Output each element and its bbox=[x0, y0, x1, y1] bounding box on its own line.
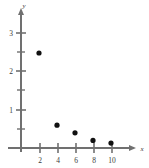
data-point-series bbox=[36, 50, 113, 145]
data-point bbox=[72, 130, 77, 135]
x-tick-label-4: 4 bbox=[56, 156, 60, 165]
data-point bbox=[108, 140, 113, 145]
data-point bbox=[54, 123, 59, 128]
x-tick-label-6: 6 bbox=[74, 156, 78, 165]
scatter-plot-figure: 1 2 3 2 4 6 8 10 y x bbox=[0, 0, 149, 168]
y-tick-label-2: 2 bbox=[9, 67, 13, 76]
y-tick-label-3: 3 bbox=[9, 29, 13, 38]
x-axis bbox=[8, 145, 136, 151]
x-tick-label-8: 8 bbox=[92, 156, 96, 165]
y-tick-label-1: 1 bbox=[9, 106, 13, 115]
x-axis-label: x bbox=[139, 145, 144, 153]
y-axis-label: y bbox=[21, 2, 26, 10]
plot-canvas: 1 2 3 2 4 6 8 10 y x bbox=[0, 0, 149, 168]
x-tick-label-10: 10 bbox=[108, 156, 116, 165]
data-point bbox=[36, 50, 41, 55]
data-point bbox=[90, 138, 95, 143]
x-axis-arrowhead bbox=[129, 145, 136, 151]
y-axis bbox=[18, 8, 24, 152]
x-tick-label-2: 2 bbox=[38, 156, 42, 165]
